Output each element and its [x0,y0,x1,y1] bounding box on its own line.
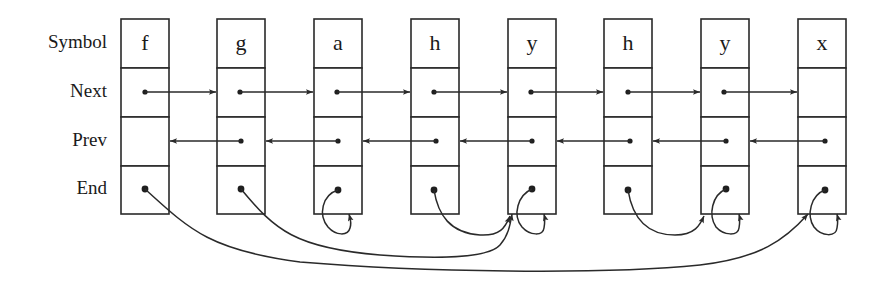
node-3: h [411,19,459,214]
node-symbol: f [141,30,149,55]
node-symbol: h [623,30,634,55]
next-cell [798,68,846,117]
row-labels: Symbol Next Prev End [48,31,108,198]
end-arrow-g-to-y [241,189,512,257]
node-symbol: y [527,30,538,55]
node-symbol: h [430,30,441,55]
row-label-symbol: Symbol [48,31,107,52]
node-1: g [217,19,265,214]
node-5: h [604,19,652,214]
node-4: y [508,19,556,214]
node-symbol: x [817,30,828,55]
row-label-prev: Prev [72,129,107,150]
prev-cell [121,117,169,166]
next-pointers [142,89,797,94]
node-7: x [798,19,846,214]
node-symbol: a [333,30,343,55]
node-6: y [701,19,749,214]
linked-list-diagram: Symbol Next Prev End f g a h y [0,0,886,281]
node-2: a [314,19,362,214]
node-symbol: g [236,30,247,55]
row-label-end: End [76,177,107,198]
node-symbol: y [720,30,731,55]
node-0: f [121,19,169,214]
row-label-next: Next [70,80,108,101]
